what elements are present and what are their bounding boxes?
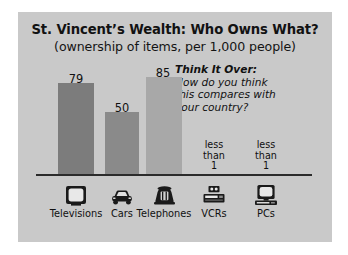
category-telephones: Telephones [134, 182, 194, 219]
category-pcs: PCs [244, 182, 288, 219]
bar-value-label-pcs: less than 1 [243, 140, 289, 172]
pc-one-line: 1 [243, 161, 289, 172]
category-label-vcrs: VCRs [192, 208, 236, 219]
plot-area: 79 50 85 less than 1 less than 1 [18, 12, 332, 242]
vcr-icon [192, 182, 236, 206]
axis-baseline [36, 174, 312, 176]
television-icon [44, 182, 108, 206]
category-label-telephones: Telephones [134, 208, 194, 219]
chart-panel: St. Vincent’s Wealth: Who Owns What? (ow… [18, 12, 332, 242]
category-vcrs: VCRs [192, 182, 236, 219]
vcr-less-line: less [191, 140, 237, 151]
bar-telephones [146, 77, 182, 174]
pc-less-line: less [243, 140, 289, 151]
computer-icon [244, 182, 288, 206]
bar-televisions [58, 83, 94, 174]
category-label-pcs: PCs [244, 208, 288, 219]
bar-value-label-vcrs: less than 1 [191, 140, 237, 172]
chart-figure: St. Vincent’s Wealth: Who Owns What? (ow… [0, 0, 348, 255]
category-label-televisions: Televisions [44, 208, 108, 219]
bar-cars [105, 112, 139, 174]
vcr-one-line: 1 [191, 161, 237, 172]
telephone-icon [134, 182, 194, 206]
category-televisions: Televisions [44, 182, 108, 219]
